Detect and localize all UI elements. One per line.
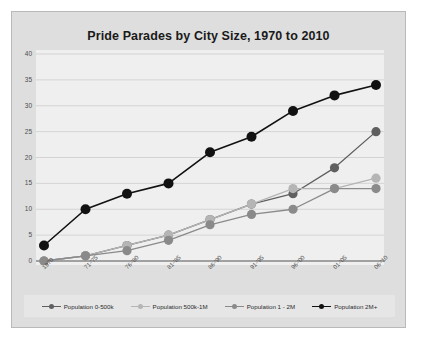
legend-dot (138, 304, 143, 309)
x-axis-tick-label: 71-'75 (83, 254, 99, 270)
legend-item[interactable]: Population 1 - 2M (225, 302, 296, 310)
chart-frame: Pride Parades by City Size, 1970 to 2010… (11, 11, 406, 328)
x-axis-tick-label: 96-'00 (290, 254, 306, 270)
legend-item[interactable]: Population 0-500k (42, 302, 114, 310)
x-axis-tick-label: 91-'95 (249, 254, 265, 270)
x-axis-tick-label: 06-'10 (373, 254, 389, 270)
legend-marker-icon (42, 302, 61, 310)
legend-item[interactable]: Population 500k-1M (131, 302, 208, 310)
x-axis-tick-label: 1970 (41, 257, 55, 271)
legend-label: Population 2M+ (334, 303, 377, 310)
legend-label: Population 0-500k (64, 303, 114, 310)
legend-dot (232, 304, 237, 309)
chart-legend: Population 0-500kPopulation 500k-1MPopul… (24, 295, 395, 317)
x-axis-tick-label: 01-'05 (332, 254, 348, 270)
legend-label: Population 500k-1M (153, 303, 208, 310)
legend-label: Population 1 - 2M (247, 303, 296, 310)
x-axis-tick-label: 86-'90 (207, 254, 223, 270)
legend-marker-icon (131, 302, 150, 310)
legend-dot (49, 304, 54, 309)
x-axis-tick-label: 81-'85 (166, 254, 182, 270)
x-axis-labels: 197071-'7576-'8081-'8586-'9091-'9596-'00… (12, 12, 407, 329)
x-axis-tick-label: 76-'80 (124, 254, 140, 270)
legend-item[interactable]: Population 2M+ (312, 302, 377, 310)
legend-marker-icon (312, 302, 331, 310)
legend-dot (319, 304, 324, 309)
legend-marker-icon (225, 302, 244, 310)
